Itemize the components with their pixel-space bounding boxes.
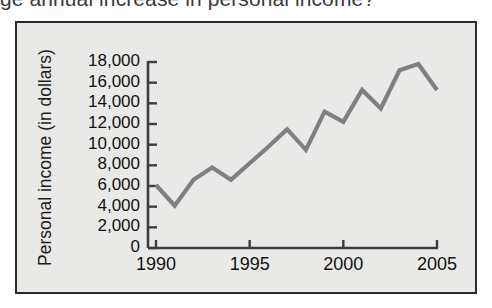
x-axis-tick-label: 1990 bbox=[121, 254, 191, 275]
x-axis-tick-labels: 1990199520002005 bbox=[0, 0, 492, 308]
x-axis-tick-label: 2000 bbox=[308, 254, 378, 275]
x-axis-tick-label: 2005 bbox=[402, 254, 472, 275]
x-axis-tick-label: 1995 bbox=[215, 254, 285, 275]
